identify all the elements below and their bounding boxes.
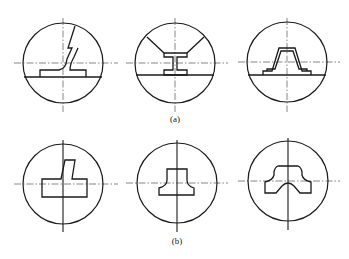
panel-b3 xyxy=(238,138,340,230)
panel-a2 xyxy=(126,18,228,112)
row-b-label: (b) xyxy=(172,236,183,246)
diagonal-cut-left xyxy=(147,37,164,53)
panel-b2 xyxy=(126,140,228,232)
i-beam-section xyxy=(164,53,187,75)
panel-a1 xyxy=(14,18,118,112)
panel-b1 xyxy=(14,140,118,232)
diagonal-cut-right xyxy=(187,37,204,53)
technical-diagram xyxy=(0,0,349,259)
offset-tee-section xyxy=(42,160,87,197)
panel-a3 xyxy=(238,18,340,112)
row-a-label: (a) xyxy=(170,114,180,124)
tee-profile-right xyxy=(70,48,86,77)
